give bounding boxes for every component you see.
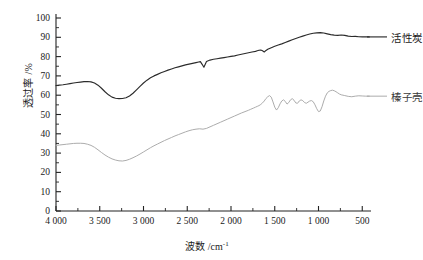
x-tick-label: 2 500 (177, 216, 198, 226)
x-tick-label: 3 500 (89, 216, 110, 226)
x-axis-title-text: 波数 /cm (185, 241, 223, 252)
y-axis-title: 透过率 /% (20, 31, 35, 141)
legend-item-2-label: 榛子壳 (391, 89, 423, 104)
legend-item-1-label: 活性炭 (391, 30, 423, 45)
y-tick-label: 90 (22, 32, 50, 42)
y-tick-label: 70 (22, 71, 50, 81)
y-tick-label: 30 (22, 148, 50, 158)
y-tick-label: 60 (22, 90, 50, 100)
y-tick-label: 80 (22, 52, 50, 62)
chart-axes (56, 14, 371, 211)
x-tick-label: 2 000 (220, 216, 241, 226)
x-axis-title-exponent: -1 (223, 240, 229, 248)
y-tick-label: 0 (22, 206, 50, 216)
chart-series (56, 33, 369, 161)
y-tick-label: 20 (22, 167, 50, 177)
y-tick-label: 50 (22, 110, 50, 120)
y-tick-label: 40 (22, 129, 50, 139)
x-tick-label: 4 000 (45, 216, 66, 226)
x-axis-title: 波数 /cm-1 (0, 238, 414, 253)
series-line-2 (56, 90, 369, 161)
x-tick-label: 3 000 (133, 216, 154, 226)
x-tick-label: 500 (355, 216, 369, 226)
series-line-1 (56, 33, 369, 99)
y-tick-label: 10 (22, 187, 50, 197)
legend-line-swatches (367, 37, 387, 96)
x-tick-label: 1 000 (308, 216, 329, 226)
y-tick-label: 100 (22, 13, 50, 23)
x-tick-label: 1 500 (264, 216, 285, 226)
